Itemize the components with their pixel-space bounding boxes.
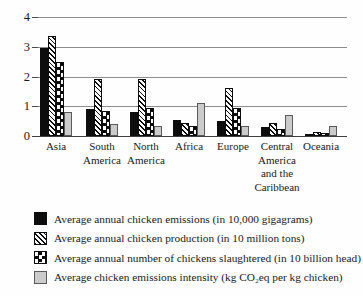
y-tick-2 [32,77,38,78]
bar-series4 [154,126,162,136]
y-tick-label-4: 4 [14,11,30,23]
bar-series3 [321,133,329,136]
y-tick-label-2: 2 [14,71,30,83]
bar-group-central-america-and-the-caribbean [261,17,293,136]
bar-series2 [313,132,321,136]
legend-label: Average annual chicken production (in 10… [54,232,304,244]
bar-series1 [40,48,48,136]
bar-series1 [305,134,313,136]
bar-series1 [261,127,269,136]
bar-group-oceania [305,17,337,136]
bar-series4 [329,126,337,136]
bar-series2 [181,123,189,136]
bar-series4 [285,115,293,136]
bar-series3 [233,108,241,136]
bar-group-asia [40,17,72,136]
x-axis-labels: AsiaSouth AmericaNorth AmericaAfricaEuro… [38,140,347,200]
y-tick-1 [32,106,38,107]
bar-series4 [64,112,72,136]
legend: Average annual chicken emissions (in 10,… [34,209,361,287]
bar-group-north-america [130,17,162,136]
bar-series1 [173,120,181,136]
bar-series3 [189,126,197,136]
y-tick-label-1: 1 [14,100,30,112]
bar-group-south-america [86,17,118,136]
plot-area: 01234 [38,17,347,136]
bar-series2 [269,123,277,136]
x-axis-baseline [32,136,347,137]
legend-row: Average annual number of chickens slaugh… [34,248,361,268]
bar-series4 [110,124,118,136]
y-tick-3 [32,47,38,48]
legend-row: Average annual chicken emissions (in 10,… [34,209,361,229]
y-tick-4 [32,17,38,18]
bar-series3 [56,62,64,136]
bar-series2 [138,79,146,136]
bar-series4 [197,103,205,136]
legend-label: Average annual number of chickens slaugh… [54,252,361,264]
legend-row: Average annual chicken production (in 10… [34,229,361,249]
legend-label: Average annual chicken emissions (in 10,… [54,213,313,225]
legend-swatch-checkerboard-icon [34,251,47,264]
x-category-label: Oceania [293,140,349,154]
bar-series3 [102,111,110,136]
bar-series3 [146,108,154,136]
bar-series1 [130,112,138,136]
y-tick-label-3: 3 [14,41,30,53]
chart-figure: 01234 AsiaSouth AmericaNorth AmericaAfri… [0,0,363,296]
bar-series2 [225,88,233,136]
legend-swatch-solid-gray-icon [34,271,47,284]
legend-row: Average chicken emissions intensity (kg … [34,268,361,288]
legend-label: Average chicken emissions intensity (kg … [54,271,343,283]
bar-series2 [48,36,56,136]
bar-series2 [94,79,102,136]
bar-series1 [217,121,225,136]
bar-group-europe [217,17,249,136]
bar-series4 [241,126,249,136]
legend-swatch-diagonal-hatch-icon [34,232,47,245]
bar-group-africa [173,17,205,136]
bar-series3 [277,129,285,136]
bar-series1 [86,109,94,136]
legend-swatch-solid-black-icon [34,212,47,225]
